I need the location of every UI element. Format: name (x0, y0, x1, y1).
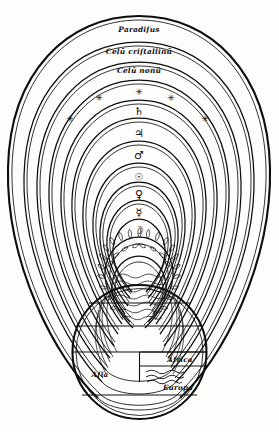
mediterranean-water (146, 370, 184, 384)
fixed-star-icon: ✳ (95, 93, 103, 103)
planet-glyphs-group: ♄ ♃ ♂ ☉ ♀ ☿ ☽ (134, 105, 144, 237)
figure-canvas: Paradiſus Celū criſtallinū Celū nonū ✳ ✳… (0, 0, 279, 432)
mercury-icon: ☿ (136, 206, 143, 219)
jupiter-icon: ♃ (134, 127, 144, 140)
region-label-asia: Aſia (91, 370, 109, 379)
fixed-star-icon: ✳ (135, 87, 143, 97)
mars-icon: ♂ (134, 149, 144, 162)
moon-icon: ☽ (134, 224, 144, 237)
fixed-star-icon: ✳ (201, 114, 209, 124)
region-label-africa: Africa (166, 355, 192, 364)
venus-icon: ♀ (135, 188, 143, 201)
sphere-labels-group: Paradiſus Celū criſtallinū Celū nonū (106, 25, 172, 75)
terrestrial-globe: Aſia Africa Europa (73, 285, 208, 419)
sphere-label-paradise: Paradiſus (117, 25, 160, 34)
cosmos-woodcut: Paradiſus Celū criſtallinū Celū nonū ✳ ✳… (0, 0, 279, 432)
saturn-icon: ♄ (134, 105, 144, 118)
fixed-star-icon: ✳ (66, 114, 74, 124)
sun-icon: ☉ (135, 171, 144, 182)
sphere-label-ninth-heaven: Celū nonū (117, 66, 161, 75)
sphere-label-crystalline: Celū criſtallinū (106, 47, 172, 56)
region-label-europa: Europa (162, 383, 193, 392)
fixed-star-icon: ✳ (167, 93, 175, 103)
